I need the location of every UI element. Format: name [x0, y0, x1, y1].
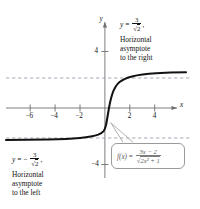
- function-curve: [6, 72, 186, 140]
- annotation-right-radicand: 2: [137, 24, 140, 32]
- function-callout-fraction: 3x − 2 √2x² + 1: [136, 148, 161, 166]
- x-tick-label--2: −2: [75, 112, 83, 120]
- function-callout-eq: =: [129, 153, 133, 161]
- function-callout-expression: f(x) = 3x − 2 √2x² + 1: [117, 148, 162, 166]
- annotation-right-equation: y = 3 √2 ,: [120, 16, 144, 34]
- annotation-left-lhs: y: [12, 155, 15, 164]
- annotation-right-denominator: √2: [132, 23, 141, 34]
- annotation-right-lhs: y: [120, 20, 123, 29]
- annotation-right-fraction: 3 √2: [132, 16, 141, 34]
- annotation-left-comma: ,: [40, 155, 42, 164]
- x-tick-label--6: −6: [25, 112, 33, 120]
- annotation-right-eq: =: [125, 20, 129, 29]
- annotation-left-equation: y = − 3 √2 ,: [12, 151, 42, 169]
- x-tick-label-2: 2: [128, 112, 132, 120]
- x-tick-label-4: 4: [153, 112, 157, 120]
- function-callout-radicand: 2x² + 1: [140, 156, 159, 164]
- y-axis: [101, 22, 108, 178]
- function-callout-box: f(x) = 3x − 2 √2x² + 1: [111, 143, 185, 169]
- y-axis-label: y: [99, 15, 102, 23]
- annotation-left-fraction: 3 √2: [30, 151, 39, 169]
- annotation-left-line3: to the left: [12, 189, 40, 198]
- x-axis-label: x: [180, 101, 183, 109]
- annotation-right-line3: to the right: [120, 54, 152, 63]
- y-tick-label--4: −4: [91, 160, 99, 168]
- annotation-left-numerator: 3: [30, 151, 39, 158]
- annotation-right-comma: ,: [142, 20, 144, 29]
- annotation-left-radicand: 2: [35, 159, 38, 167]
- annotation-right-numerator: 3: [132, 16, 141, 23]
- callout-leader-lines: [111, 123, 133, 143]
- function-callout-denominator: √2x² + 1: [136, 155, 161, 166]
- function-graph-figure: −6 −4 −2 2 4 4 −4 x y y = 3 √2 , Horizon…: [0, 0, 200, 209]
- annotation-left-denominator: √2: [30, 158, 39, 169]
- annotation-left-eq: = −: [17, 155, 27, 164]
- function-callout-numerator: 3x − 2: [136, 148, 161, 155]
- function-callout-lhs: f(x): [117, 153, 127, 161]
- x-tick-label--4: −4: [50, 112, 58, 120]
- y-tick-label-4: 4: [95, 47, 99, 55]
